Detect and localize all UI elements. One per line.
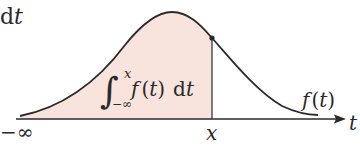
- integral-lower-limit: −∞: [112, 97, 132, 111]
- x-marker-dot: [209, 35, 214, 40]
- neg-infinity-label: −∞: [0, 120, 33, 144]
- curve-label: f(t): [300, 88, 335, 112]
- x-point-label: x: [206, 121, 217, 145]
- normal-distribution-diagram: dt ∫ x −∞ f(t)dt f(t) −∞ x t: [0, 0, 360, 148]
- t-axis-label: t: [349, 111, 358, 135]
- top-left-fragment: dt: [0, 4, 23, 29]
